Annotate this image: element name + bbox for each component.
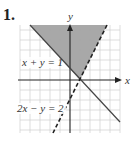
line2-label: 2x − y = 2 <box>17 102 64 114</box>
line1-label: x + y = 1 <box>21 56 63 68</box>
inequality-graph: y x x + y = 1 2x − y = 2 <box>0 0 139 145</box>
x-axis-arrow-icon <box>115 77 122 83</box>
label-line1: x + y = 1 <box>21 56 63 68</box>
y-axis-label: y <box>67 10 73 22</box>
shaded-region <box>30 25 107 80</box>
x-axis-label: x <box>124 74 130 86</box>
label-line2: 2x − y = 2 <box>16 102 66 114</box>
